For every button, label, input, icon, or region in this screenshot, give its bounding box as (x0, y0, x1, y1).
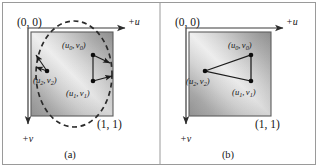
panel-b-vertex-p2 (203, 69, 208, 74)
panel-a-label-p1: (u1,v1) (66, 88, 90, 99)
panel-a-vertex-p2 (45, 69, 50, 74)
panel-b-vertex-p1 (249, 79, 254, 84)
panel-b-origin-label: (0, 0) (175, 16, 200, 29)
panel-a-label-p0: (u0,v0) (62, 40, 86, 51)
p1a-comma: , (76, 88, 78, 98)
p0a-comma: , (72, 40, 74, 50)
p0b-close: ) (248, 40, 252, 50)
panel-a-u-axis-label: +u (128, 16, 140, 27)
panel-b-vertex-p0 (249, 53, 254, 58)
p2b-close: ) (206, 76, 210, 86)
p2b-comma: , (196, 76, 198, 86)
p2a-comma: , (43, 75, 45, 85)
panel-b-caption: (b) (222, 149, 235, 161)
panel-a-vertex-p0 (91, 53, 96, 58)
panel-a-v-axis-label: +v (22, 133, 34, 144)
p1b-comma: , (242, 87, 244, 97)
figure-canvas: (0, 0) (1, 1) +u +v (u0,v0) (u2,v2) (u1,… (0, 0, 318, 167)
panel-b-v-axis-label: +v (180, 133, 192, 144)
p1b-close: ) (252, 87, 256, 97)
panel-b-label-p1: (u1,v1) (232, 87, 256, 98)
panel-b-corner-label: (1, 1) (255, 118, 280, 131)
p0a-close: ) (82, 40, 86, 50)
panel-a-vertex-p1 (91, 79, 96, 84)
panel-a-caption: (a) (64, 149, 76, 161)
panel-a-origin-label: (0, 0) (17, 16, 42, 29)
p0b-comma: , (238, 40, 240, 50)
p1a-close: ) (86, 88, 90, 98)
texture-coordinate-figure: (0, 0) (1, 1) +u +v (u0,v0) (u2,v2) (u1,… (0, 0, 318, 167)
panel-b-label-p0: (u0,v0) (228, 40, 252, 51)
panel-a-corner-label: (1, 1) (97, 118, 122, 131)
panel-b-u-axis-label: +u (286, 16, 298, 27)
panel-b-label-p2: (u2,v2) (186, 76, 210, 87)
panel-a-label-p2: (u2,v2) (33, 75, 57, 86)
p2a-close: ) (53, 75, 57, 85)
